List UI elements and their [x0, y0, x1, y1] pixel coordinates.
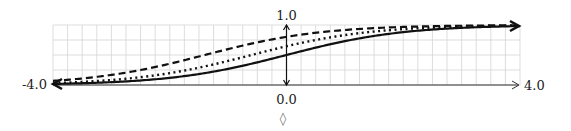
x-tick-min: -4.0 [22, 77, 47, 92]
diamond-icon: ◊ [280, 111, 287, 127]
y-tick-max: 1.0 [276, 8, 297, 23]
axes [53, 25, 519, 89]
x-tick-zero: 0.0 [276, 92, 297, 107]
sigmoid-chart: -4.0 0.0 4.0 1.0 ◊ [0, 0, 571, 131]
x-tick-max: 4.0 [524, 78, 545, 93]
